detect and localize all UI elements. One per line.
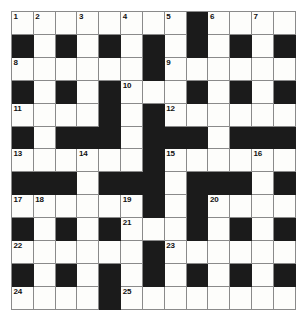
grid-cell-open[interactable]: 13: [12, 149, 34, 172]
grid-cell-open[interactable]: [230, 195, 252, 218]
grid-cell-open[interactable]: [274, 241, 296, 264]
grid-cell-open[interactable]: [56, 58, 78, 81]
grid-cell-open[interactable]: [56, 149, 78, 172]
grid-cell-open[interactable]: [34, 287, 56, 310]
grid-cell-open[interactable]: 16: [252, 149, 274, 172]
grid-cell-open[interactable]: [208, 35, 230, 58]
grid-cell-open[interactable]: [187, 241, 209, 264]
grid-cell-open[interactable]: [34, 149, 56, 172]
grid-cell-open[interactable]: [252, 35, 274, 58]
grid-cell-open[interactable]: [143, 287, 165, 310]
grid-cell-open[interactable]: [208, 218, 230, 241]
grid-cell-open[interactable]: [77, 241, 99, 264]
grid-cell-open[interactable]: [165, 195, 187, 218]
grid-cell-open[interactable]: [77, 35, 99, 58]
grid-cell-open[interactable]: 20: [208, 195, 230, 218]
grid-cell-open[interactable]: [77, 195, 99, 218]
grid-cell-open[interactable]: [34, 218, 56, 241]
grid-cell-open[interactable]: [121, 104, 143, 127]
grid-cell-open[interactable]: [165, 287, 187, 310]
crossword-grid[interactable]: 1234567891011121314151617181920212223242…: [11, 11, 296, 310]
grid-cell-open[interactable]: [252, 172, 274, 195]
grid-cell-open[interactable]: [274, 12, 296, 35]
grid-cell-open[interactable]: [34, 264, 56, 287]
grid-cell-open[interactable]: [99, 149, 121, 172]
grid-cell-open[interactable]: 5: [165, 12, 187, 35]
grid-cell-open[interactable]: [274, 104, 296, 127]
grid-cell-open[interactable]: [56, 287, 78, 310]
grid-cell-open[interactable]: [208, 287, 230, 310]
grid-cell-open[interactable]: [121, 127, 143, 150]
grid-cell-open[interactable]: [230, 12, 252, 35]
grid-cell-open[interactable]: [252, 218, 274, 241]
grid-cell-open[interactable]: [208, 264, 230, 287]
grid-cell-open[interactable]: 21: [121, 218, 143, 241]
grid-cell-open[interactable]: 19: [121, 195, 143, 218]
grid-cell-open[interactable]: [230, 58, 252, 81]
grid-cell-open[interactable]: 4: [121, 12, 143, 35]
grid-cell-open[interactable]: [56, 241, 78, 264]
grid-cell-open[interactable]: [208, 241, 230, 264]
grid-cell-open[interactable]: 11: [12, 104, 34, 127]
grid-cell-open[interactable]: [34, 81, 56, 104]
grid-cell-open[interactable]: 14: [77, 149, 99, 172]
grid-cell-open[interactable]: 2: [34, 12, 56, 35]
grid-cell-open[interactable]: [121, 241, 143, 264]
grid-cell-open[interactable]: 8: [12, 58, 34, 81]
grid-cell-open[interactable]: [143, 218, 165, 241]
grid-cell-open[interactable]: [77, 218, 99, 241]
grid-cell-open[interactable]: [208, 104, 230, 127]
grid-cell-open[interactable]: [274, 287, 296, 310]
grid-cell-open[interactable]: [121, 58, 143, 81]
grid-cell-open[interactable]: [56, 12, 78, 35]
grid-cell-open[interactable]: [165, 264, 187, 287]
grid-cell-open[interactable]: [77, 58, 99, 81]
grid-cell-open[interactable]: [165, 35, 187, 58]
grid-cell-open[interactable]: 22: [12, 241, 34, 264]
grid-cell-open[interactable]: [252, 287, 274, 310]
grid-cell-open[interactable]: 9: [165, 58, 187, 81]
grid-cell-open[interactable]: [34, 241, 56, 264]
grid-cell-open[interactable]: [208, 81, 230, 104]
grid-cell-open[interactable]: [252, 264, 274, 287]
grid-cell-open[interactable]: 10: [121, 81, 143, 104]
grid-cell-open[interactable]: [121, 35, 143, 58]
grid-cell-open[interactable]: [77, 172, 99, 195]
grid-cell-open[interactable]: [121, 264, 143, 287]
grid-cell-open[interactable]: 17: [12, 195, 34, 218]
grid-cell-open[interactable]: 7: [252, 12, 274, 35]
grid-cell-open[interactable]: [187, 287, 209, 310]
grid-cell-open[interactable]: 1: [12, 12, 34, 35]
grid-cell-open[interactable]: [99, 241, 121, 264]
grid-cell-open[interactable]: [230, 149, 252, 172]
grid-cell-open[interactable]: [165, 218, 187, 241]
grid-cell-open[interactable]: [187, 58, 209, 81]
grid-cell-open[interactable]: 12: [165, 104, 187, 127]
grid-cell-open[interactable]: [208, 127, 230, 150]
grid-cell-open[interactable]: [121, 149, 143, 172]
grid-cell-open[interactable]: 3: [77, 12, 99, 35]
grid-cell-open[interactable]: 24: [12, 287, 34, 310]
grid-cell-open[interactable]: [187, 104, 209, 127]
grid-cell-open[interactable]: [99, 58, 121, 81]
grid-cell-open[interactable]: [56, 195, 78, 218]
grid-cell-open[interactable]: 25: [121, 287, 143, 310]
grid-cell-open[interactable]: [34, 104, 56, 127]
grid-cell-open[interactable]: [77, 81, 99, 104]
grid-cell-open[interactable]: [34, 35, 56, 58]
grid-cell-open[interactable]: [143, 12, 165, 35]
grid-cell-open[interactable]: [56, 104, 78, 127]
grid-cell-open[interactable]: [99, 195, 121, 218]
grid-cell-open[interactable]: [230, 241, 252, 264]
grid-cell-open[interactable]: [252, 241, 274, 264]
grid-cell-open[interactable]: [274, 195, 296, 218]
grid-cell-open[interactable]: [252, 195, 274, 218]
grid-cell-open[interactable]: 18: [34, 195, 56, 218]
grid-cell-open[interactable]: [99, 12, 121, 35]
grid-cell-open[interactable]: [252, 81, 274, 104]
grid-cell-open[interactable]: [230, 287, 252, 310]
grid-cell-open[interactable]: [208, 58, 230, 81]
grid-cell-open[interactable]: [252, 104, 274, 127]
grid-cell-open[interactable]: [143, 81, 165, 104]
grid-cell-open[interactable]: [165, 81, 187, 104]
